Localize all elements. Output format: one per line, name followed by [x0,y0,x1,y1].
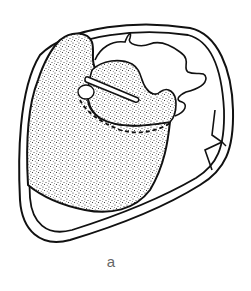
panel-label: a [100,254,122,270]
stippled-mass-upper [88,61,176,126]
diagram-drawing [0,0,251,291]
diagram-figure: a [0,0,251,291]
small-oval [78,85,94,99]
right-notch-edge [222,142,226,146]
